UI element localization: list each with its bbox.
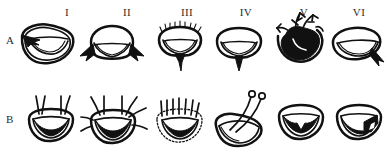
- specimen-b-vi: [331, 100, 387, 148]
- specimen-b-ii: [80, 93, 150, 151]
- specimen-a-vi: [328, 24, 386, 68]
- specimen-b-i: [20, 95, 82, 151]
- column-label-i: I: [52, 6, 82, 18]
- specimen-b-iv: [208, 86, 276, 152]
- figure-plate: I II III IV V VI A B: [0, 0, 387, 155]
- specimen-b-v: [273, 100, 331, 148]
- column-label-iii: III: [172, 6, 202, 18]
- column-label-ii: II: [112, 6, 142, 18]
- specimen-a-iii: [149, 20, 211, 72]
- row-label-a: A: [6, 34, 14, 46]
- specimen-a-iv: [208, 24, 270, 72]
- specimen-b-iii: [148, 94, 212, 150]
- specimen-a-ii: [79, 24, 145, 68]
- column-label-iv: IV: [231, 6, 261, 18]
- specimen-a-i: [18, 22, 78, 68]
- column-label-vi: VI: [344, 6, 374, 18]
- specimen-a-v: [268, 8, 330, 70]
- row-label-b: B: [6, 113, 13, 125]
